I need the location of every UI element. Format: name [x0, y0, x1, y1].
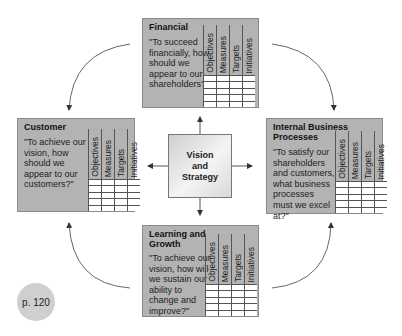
grid-header: Initiatives — [127, 129, 140, 179]
vision-label-line: Strategy — [182, 172, 218, 183]
grid-header: Objectives — [203, 25, 216, 75]
panel-financial: Financial "To succeed financially, how s… — [142, 18, 259, 108]
grid-header: Initiatives — [244, 234, 257, 284]
grid-header: Targets — [229, 25, 242, 75]
grid-header: Targets — [361, 131, 374, 181]
grid-header: Measures — [348, 131, 361, 181]
scorecard-grid: Objectives Measures Targets Initiatives — [203, 25, 255, 107]
grid-header: Objectives — [88, 129, 101, 179]
scorecard-grid: Objectives Measures Targets Initiatives — [88, 129, 140, 211]
panel-question: "To achieve our vision, how should we ap… — [24, 137, 90, 190]
grid-header: Initiatives — [374, 131, 387, 181]
scorecard-grid: Objectives Measures Targets Initiatives — [205, 234, 257, 316]
panel-title: Learning and Growth — [149, 229, 209, 249]
panel-customer: Customer "To achieve our vision, how sho… — [17, 118, 135, 212]
panel-internal-business-processes: Internal Business Processes "To satisfy … — [266, 118, 383, 214]
vision-and-strategy-box: Vision and Strategy — [168, 134, 232, 198]
grid-header: Objectives — [205, 234, 218, 284]
scorecard-grid: Objectives Measures Targets Initiatives — [335, 131, 387, 213]
panel-question: "To achieve our vision, how will we sust… — [149, 253, 213, 317]
panel-learning-and-growth: Learning and Growth "To achieve our visi… — [142, 225, 259, 317]
vision-label-line: and — [182, 161, 218, 172]
grid-header: Measures — [101, 129, 114, 179]
grid-header: Targets — [114, 129, 127, 179]
grid-header: Targets — [231, 234, 244, 284]
grid-header: Measures — [216, 25, 229, 75]
grid-header: Measures — [218, 234, 231, 284]
grid-header: Objectives — [335, 131, 348, 181]
page-number-badge: p. 120 — [17, 283, 55, 321]
panel-title: Financial — [149, 22, 188, 32]
vision-label-line: Vision — [182, 150, 218, 161]
panel-title: Customer — [24, 122, 66, 132]
panel-question: "To satisfy our shareholders and custome… — [273, 147, 335, 221]
grid-header: Initiatives — [242, 25, 255, 75]
